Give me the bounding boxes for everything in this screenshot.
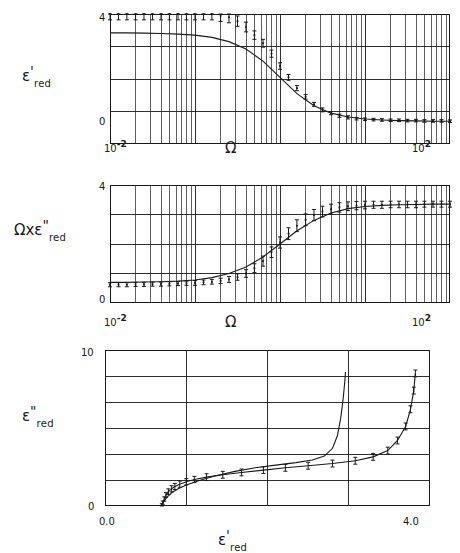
panel1-plot-area — [110, 14, 450, 144]
panel3-x-axis-label: ε'red — [218, 526, 247, 551]
panel1-y-axis-label: ε'red — [22, 62, 51, 87]
panel3-ytick-min: 0 — [88, 501, 94, 512]
panel-eps-real: ε'red 4 0 10-2 102 Ω — [0, 0, 460, 170]
panel-omega-eps-imag: Ωxε"red 4 0 10-2 102 Ω — [0, 168, 460, 330]
panel2-ytick-min: 0 — [99, 294, 105, 305]
panel1-ytick-max: 4 — [99, 12, 105, 23]
panel2-xtick-left: 10-2 — [104, 314, 127, 328]
panel-cole-cole: ε"red 10 0 0.0 4.0 ε'red — [0, 336, 460, 550]
panel3-xtick-left: 0.0 — [99, 516, 115, 527]
panel3-xtick-right: 4.0 — [403, 516, 419, 527]
panel2-plot-area — [110, 185, 450, 303]
panel3-y-axis-label: ε"red — [22, 402, 54, 427]
panel2-ytick-max: 4 — [99, 181, 105, 192]
panel2-xtick-right: 102 — [412, 314, 431, 328]
panel2-x-axis-label: Ω — [225, 313, 236, 331]
panel3-plot-area — [105, 350, 430, 506]
panel1-ytick-min: 0 — [99, 116, 105, 127]
panel3-ytick-max: 10 — [81, 347, 94, 358]
panel2-y-axis-label: Ωxε"red — [14, 216, 66, 241]
